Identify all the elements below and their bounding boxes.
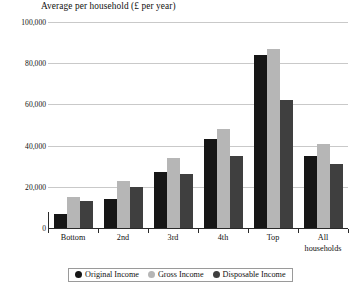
label-line: 4th xyxy=(198,233,248,244)
y-axis-tick-label: 60,000 xyxy=(2,100,46,109)
x-axis-category-labels: Bottom2nd3rd4thTopAllhouseholds xyxy=(48,233,348,254)
label-line: Top xyxy=(248,233,298,244)
bar-chart: Average per household (£ per year) 100,0… xyxy=(0,0,360,298)
legend-label: Gross Income xyxy=(158,270,204,279)
bar-group xyxy=(148,22,198,228)
bar xyxy=(104,199,117,228)
bar xyxy=(230,156,243,228)
bar xyxy=(317,144,330,228)
bar-groups xyxy=(48,22,348,228)
legend-swatch-circle-icon xyxy=(75,271,82,278)
bar xyxy=(54,214,67,228)
bar xyxy=(280,100,293,228)
y-axis-tick-label: 20,000 xyxy=(2,183,46,192)
legend-label: Original Income xyxy=(85,270,139,279)
bar xyxy=(304,156,317,228)
legend-item: Gross Income xyxy=(148,270,204,279)
label-line: Bottom xyxy=(48,233,98,244)
bar-group xyxy=(248,22,298,228)
y-axis-tick-label: 100,000 xyxy=(2,18,46,27)
label-line: households xyxy=(298,244,348,255)
bar xyxy=(254,55,267,228)
bar xyxy=(117,181,130,228)
bar xyxy=(167,158,180,228)
bar xyxy=(217,129,230,228)
x-axis-category-label: Top xyxy=(248,233,298,254)
bar xyxy=(330,164,343,228)
bar-group xyxy=(298,22,348,228)
legend-item: Original Income xyxy=(75,270,139,279)
label-line: 3rd xyxy=(148,233,198,244)
y-axis-tick-label: 0 xyxy=(2,224,46,233)
bar xyxy=(267,49,280,228)
legend-item: Disposable Income xyxy=(213,270,286,279)
bar-group xyxy=(48,22,98,228)
bar xyxy=(130,187,143,228)
label-line: 2nd xyxy=(98,233,148,244)
legend-label: Disposable Income xyxy=(223,270,286,279)
chart-title: Average per household (£ per year) xyxy=(41,1,176,11)
x-axis-category-label: Allhouseholds xyxy=(298,233,348,254)
bar xyxy=(67,197,80,228)
chart-legend: Original IncomeGross IncomeDisposable In… xyxy=(68,268,293,282)
legend-swatch-circle-icon xyxy=(148,271,155,278)
legend-swatch-circle-icon xyxy=(213,271,220,278)
bar-group xyxy=(198,22,248,228)
x-axis-category-label: Bottom xyxy=(48,233,98,254)
x-axis-category-label: 4th xyxy=(198,233,248,254)
y-axis-tick-label: 80,000 xyxy=(2,59,46,68)
bar xyxy=(154,172,167,228)
bar-group xyxy=(98,22,148,228)
y-axis-tick-label: 40,000 xyxy=(2,142,46,151)
bar xyxy=(180,174,193,228)
y-axis-tick-labels: 100,00080,00060,00040,00020,0000 xyxy=(0,0,46,298)
x-axis-category-label: 3rd xyxy=(148,233,198,254)
bar xyxy=(80,201,93,228)
label-line: All xyxy=(298,233,348,244)
x-axis-tick-mark xyxy=(348,229,349,233)
bar xyxy=(204,139,217,228)
x-axis-category-label: 2nd xyxy=(98,233,148,254)
